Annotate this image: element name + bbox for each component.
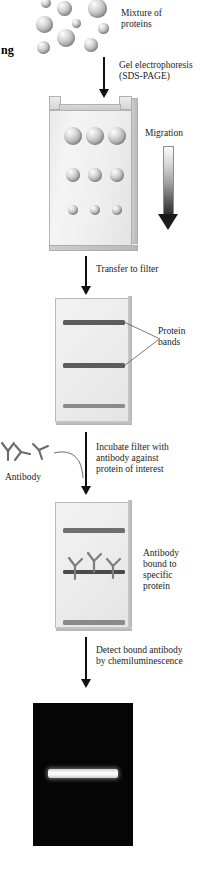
protein-sphere (72, 19, 81, 28)
gel-protein-sphere (112, 205, 122, 215)
transfer-to-filter-label: Transfer to filter (96, 264, 196, 275)
protein-mixture-group (0, 0, 130, 62)
gel-electrophoresis-label: Gel electrophoresis (SDS-PAGE) (119, 60, 199, 82)
protein-sphere (57, 1, 72, 16)
gel-slab (49, 96, 139, 254)
protein-band (63, 320, 125, 325)
bound-antibody-group (59, 552, 131, 586)
gel-protein-sphere (66, 168, 80, 182)
gel-protein-sphere (90, 205, 100, 215)
antibody-bound-label: Antibody bound to specific protein (143, 548, 200, 592)
protein-sphere (37, 41, 50, 54)
protein-band (63, 528, 125, 533)
filter-bottom-edge (56, 421, 132, 425)
incubate-filter-label: Incubate filter with antibody against pr… (96, 442, 200, 475)
gel-protein-sphere (86, 127, 104, 145)
detected-band (48, 769, 118, 778)
protein-sphere (36, 16, 53, 33)
detect-chemiluminescence-label: Detect bound antibody by chemiluminescen… (96, 645, 200, 667)
protein-sphere (88, 0, 107, 18)
protein-band (63, 363, 125, 368)
protein-sphere (57, 29, 75, 47)
arrow-transfer-head (81, 286, 91, 295)
filter-membrane-2 (55, 500, 135, 635)
free-antibody-group (0, 442, 60, 468)
protein-band (63, 404, 125, 408)
chemiluminescence-film (33, 703, 133, 846)
migration-label: Migration (145, 128, 200, 139)
arrow-electrophoresis-line (103, 57, 105, 91)
gel-protein-sphere (64, 127, 82, 145)
gel-protein-sphere (108, 127, 126, 145)
arrow-incubate-head (81, 486, 91, 495)
gel-protein-sphere (68, 205, 78, 215)
arrow-detect-line (85, 637, 87, 681)
arrow-incubate-line (85, 432, 87, 488)
arrow-detect-head (81, 679, 91, 688)
protein-band (63, 620, 125, 625)
western-blot-figure: ng Mixture of proteins Gel electrophores… (0, 0, 200, 889)
gel-bottom-edge (49, 245, 138, 251)
gel-protein-sphere (88, 168, 102, 182)
migration-gradient-bar (163, 146, 174, 216)
protein-sphere (84, 38, 98, 52)
arrow-transfer-line (85, 256, 87, 288)
mixture-of-proteins-label: Mixture of proteins (121, 8, 199, 30)
gel-protein-sphere (110, 168, 124, 182)
protein-sphere (98, 23, 109, 34)
migration-arrow-head (158, 214, 178, 230)
filter-bottom-edge (56, 627, 132, 631)
protein-bands-label: Protein bands (158, 326, 200, 348)
gel-right-edge (131, 98, 138, 244)
protein-sphere (41, 0, 51, 8)
